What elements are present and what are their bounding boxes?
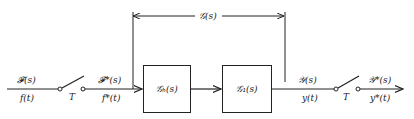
hold-block: 𝒢ₕ(s)	[143, 65, 191, 113]
sampled-input-time-label: f*(t)	[102, 93, 120, 103]
input-time-label: f(t)	[20, 93, 34, 103]
output-transform-label: 𝒴(s)	[298, 75, 317, 85]
output-switch-blade-icon	[338, 76, 359, 88]
output-switch-contact-left-icon	[334, 87, 338, 91]
switch-contact-right-icon	[81, 87, 85, 91]
switch-blade-icon	[62, 76, 84, 88]
plant-block: 𝒢₁(s)	[222, 65, 272, 113]
output-time-label: y(t)	[302, 93, 318, 103]
sampled-output-time-label: y*(t)	[370, 93, 390, 103]
input-switch-label: T	[69, 92, 75, 102]
plant-block-label: 𝒢₁(s)	[223, 84, 271, 95]
sampled-output-transform-label: 𝒴*(s)	[368, 75, 391, 85]
sampled-input-transform-label: 𝓕*(s)	[98, 75, 121, 85]
output-switch-label: T	[343, 92, 349, 102]
switch-contact-left-icon	[58, 87, 62, 91]
input-transform-label: 𝓕(s)	[17, 75, 36, 85]
output-switch-contact-right-icon	[356, 87, 360, 91]
hold-block-label: 𝒢ₕ(s)	[144, 84, 190, 95]
overall-transfer-label: 𝒢(s)	[199, 11, 217, 21]
